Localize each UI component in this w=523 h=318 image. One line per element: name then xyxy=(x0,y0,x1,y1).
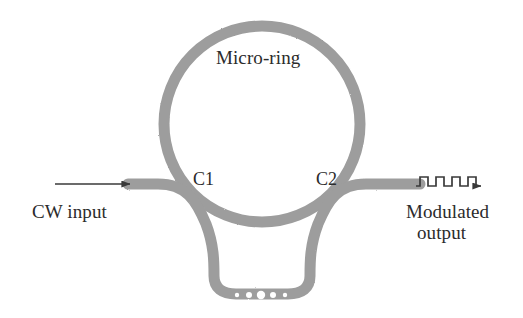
output-square-wave-path xyxy=(416,177,481,186)
micro-ring-modulator-figure: Micro-ring C1 C2 CW input Modulatedoutpu… xyxy=(0,0,523,318)
cw-input-label: CW input xyxy=(32,201,107,222)
electrode-dot xyxy=(257,291,265,299)
coupler-c2-label: C2 xyxy=(316,169,337,189)
electrode-dot xyxy=(235,293,239,297)
modulated-output-label-line1: Modulated xyxy=(406,201,489,222)
electrode-dot xyxy=(246,292,252,298)
electrode-dot xyxy=(283,293,287,297)
micro-ring-label: Micro-ring xyxy=(216,47,300,68)
modulated-output-label: Modulatedoutput xyxy=(406,201,489,244)
bus-waveguide xyxy=(128,184,420,294)
modulated-output-label-line2: output xyxy=(406,222,489,243)
coupler-c1-label: C1 xyxy=(193,169,214,189)
electrode-dot xyxy=(270,292,276,298)
bus-waveguide-path xyxy=(128,184,420,294)
modulated-output-waveform-arrow xyxy=(416,177,481,186)
